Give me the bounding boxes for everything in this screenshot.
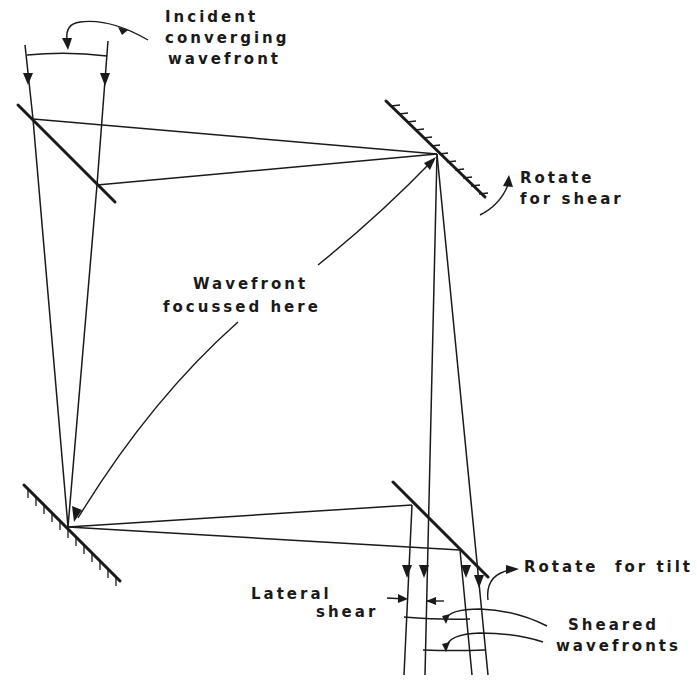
lateral-shear-indicator: [387, 594, 444, 605]
label-shear: shear: [316, 603, 378, 621]
arrow-down-icon: [474, 575, 484, 588]
label-lateral: Lateral: [251, 585, 332, 603]
rotate-tilt-pointer: [488, 565, 519, 600]
label-converging: converging: [165, 29, 290, 47]
label-incident: Incident: [165, 8, 258, 26]
label-rotate: Rotate: [520, 169, 595, 187]
incident-wavefront: [23, 21, 148, 185]
label-rotate-for-tilt: Rotate for tilt: [524, 558, 693, 576]
arrow-down-icon: [402, 565, 412, 578]
mirror-bottom-left: [24, 485, 120, 586]
arrow-down-icon: [100, 73, 110, 86]
label-wavefront: wavefront: [168, 50, 281, 68]
arrow-down-icon: [23, 73, 33, 85]
focus-pointers: [72, 157, 436, 522]
label-focussed-here: focussed here: [163, 298, 321, 316]
label-wavefront-focus: Wavefront: [193, 275, 308, 293]
interferometer-diagram: Incident converging wavefront Rotate for…: [0, 0, 697, 700]
label-sheared: Sheared: [568, 616, 659, 634]
output-arrows: [402, 565, 484, 588]
label-wavefronts: wavefronts: [556, 637, 681, 655]
label-for-shear: for shear: [520, 190, 624, 208]
